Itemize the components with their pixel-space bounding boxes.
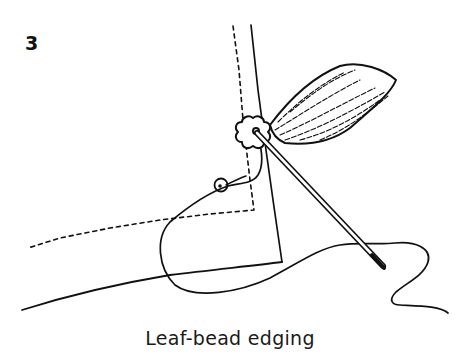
thread xyxy=(160,136,448,313)
leaf-bead-edging-illustration xyxy=(0,0,460,361)
needle-icon xyxy=(257,133,384,268)
dotted-guide-line xyxy=(28,26,254,248)
fabric-edge-line xyxy=(22,262,282,310)
leaf-bead-icon xyxy=(270,64,396,143)
caption: Leaf-bead edging xyxy=(0,327,460,349)
